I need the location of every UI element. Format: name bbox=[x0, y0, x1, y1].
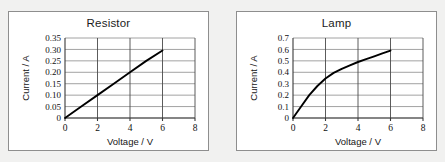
y-tick-label: 0.35 bbox=[45, 33, 61, 43]
x-tick-label: 6 bbox=[388, 123, 393, 133]
x-tick-label: 8 bbox=[193, 123, 198, 133]
plot-area-lamp: 00.10.20.30.40.50.60.702468Voltage / VCu… bbox=[237, 12, 436, 150]
y-axis-title: Current / A bbox=[20, 55, 31, 101]
y-tick-label: 0.20 bbox=[45, 67, 61, 77]
y-tick-label: 0 bbox=[57, 113, 62, 123]
x-axis-title: Voltage / V bbox=[335, 136, 382, 147]
y-tick-label: 0.25 bbox=[45, 56, 61, 66]
y-tick-label: 0.05 bbox=[45, 102, 61, 112]
y-tick-label: 0.30 bbox=[45, 45, 61, 55]
x-axis-title: Voltage / V bbox=[107, 136, 154, 147]
y-tick-label: 0 bbox=[285, 113, 290, 123]
y-tick-label: 0.2 bbox=[278, 90, 289, 100]
y-tick-label: 0.3 bbox=[278, 79, 290, 89]
y-axis-title: Current / A bbox=[248, 55, 259, 101]
x-tick-label: 2 bbox=[95, 123, 100, 133]
x-tick-label: 4 bbox=[356, 123, 361, 133]
chart-svg-resistor: 00.050.100.150.200.250.300.3502468Voltag… bbox=[9, 12, 208, 150]
chart-card-resistor: Resistor 00.050.100.150.200.250.300.3502… bbox=[8, 11, 209, 151]
y-tick-label: 0.4 bbox=[278, 67, 290, 77]
x-tick-label: 8 bbox=[421, 123, 426, 133]
x-tick-label: 0 bbox=[63, 123, 68, 133]
x-tick-label: 6 bbox=[160, 123, 165, 133]
y-tick-label: 0.15 bbox=[45, 79, 61, 89]
y-tick-label: 0.5 bbox=[278, 56, 290, 66]
y-tick-label: 0.6 bbox=[278, 45, 290, 55]
y-tick-label: 0.1 bbox=[278, 102, 289, 112]
figure-container: Resistor 00.050.100.150.200.250.300.3502… bbox=[0, 0, 445, 162]
y-tick-label: 0.7 bbox=[278, 33, 290, 43]
plot-area-resistor: 00.050.100.150.200.250.300.3502468Voltag… bbox=[9, 12, 208, 150]
x-tick-label: 2 bbox=[323, 123, 328, 133]
y-tick-label: 0.10 bbox=[45, 90, 61, 100]
chart-svg-lamp: 00.10.20.30.40.50.60.702468Voltage / VCu… bbox=[237, 12, 436, 150]
x-tick-label: 0 bbox=[291, 123, 296, 133]
chart-card-lamp: Lamp 00.10.20.30.40.50.60.702468Voltage … bbox=[236, 11, 437, 151]
x-tick-label: 4 bbox=[128, 123, 133, 133]
